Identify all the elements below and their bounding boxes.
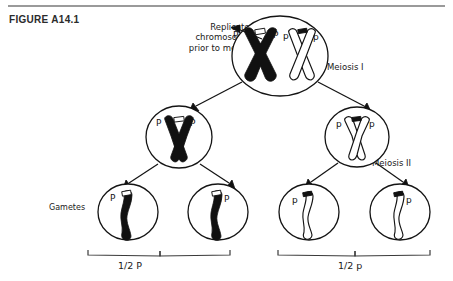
- gamete-1-centromere: [122, 190, 132, 196]
- gamete-3: p: [279, 184, 339, 240]
- diagram-svg: P P p p: [0, 0, 453, 281]
- bracket-right-half-2: [355, 250, 430, 256]
- gamete-2-centromere: [212, 190, 222, 196]
- allele-label-daughter-left-P1: P: [156, 118, 162, 128]
- centromere-light-pair: [298, 28, 308, 33]
- allele-label-gamete-1: P: [110, 193, 116, 203]
- daughter-cell-right: p p: [325, 107, 389, 167]
- gamete-1: P: [98, 184, 158, 240]
- allele-label-gamete-4: p: [406, 195, 412, 205]
- allele-label-parent-p2: p: [313, 32, 319, 42]
- allele-label-parent-P2: P: [273, 30, 279, 40]
- allele-label-parent-p1: p: [283, 31, 289, 41]
- centromere-dark-pair: [255, 28, 266, 35]
- allele-label-daughter-left-P2: P: [190, 118, 196, 128]
- bracket-left-half: [88, 250, 160, 256]
- gamete-4: p: [370, 184, 430, 240]
- daughter-cell-left: P P: [146, 106, 212, 168]
- daughter-left-centromere: [174, 116, 184, 122]
- bracket-left-half-2: [160, 250, 230, 256]
- allele-label-daughter-right-p2: p: [369, 119, 375, 129]
- daughter-right-centromere: [352, 116, 361, 121]
- bracket-right-half: [278, 250, 355, 256]
- allele-label-gamete-2: P: [224, 194, 230, 204]
- gamete-2: P: [188, 184, 248, 240]
- arrow-meiosis-one-left: [189, 82, 242, 112]
- parent-cell: P P p p: [232, 16, 328, 96]
- allele-label-gamete-3: p: [292, 195, 298, 205]
- figure-container: FIGURE A14.1 Replicated chromosomes prio…: [0, 0, 453, 281]
- allele-label-daughter-right-p1: p: [336, 119, 342, 129]
